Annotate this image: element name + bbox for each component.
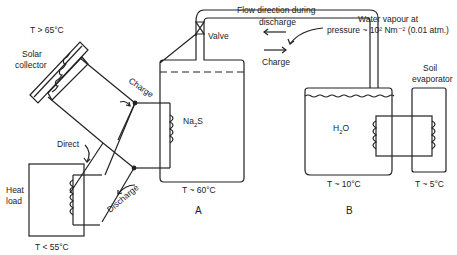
- soil-evaporator: [412, 88, 446, 172]
- flow-direction-title-2: discharge: [259, 17, 296, 27]
- vapour-label-1: Water vapour at: [358, 14, 419, 24]
- heat-load-label-2: load: [6, 196, 22, 206]
- solar-collector-label-2: collector: [15, 60, 47, 70]
- heat-load-label-1: Heat: [6, 185, 25, 195]
- solar-temperature-label: T > 65°C: [30, 25, 64, 35]
- valve: [196, 22, 204, 34]
- tank-a-temperature-label: T ~ 60°C: [182, 185, 216, 195]
- direct-flow-label: Direct: [57, 139, 80, 149]
- h2o-label: H2O: [333, 123, 349, 135]
- charge-junction: [133, 101, 137, 105]
- heat-load-temperature-label: T < 55°C: [35, 242, 69, 252]
- charge-flow-label: Charge: [127, 75, 156, 99]
- soil-evaporator-label-1: Soil: [423, 63, 437, 73]
- tank-b: [305, 88, 394, 175]
- tank-a-label: A: [195, 205, 202, 216]
- soil-evaporator-label-2: evaporator: [412, 74, 453, 84]
- heat-storage-diagram: T > 65°C Solar collector Heat load T < 5…: [0, 0, 457, 255]
- evaporator-coil-loop: [373, 116, 435, 156]
- discharge-junction: [132, 166, 136, 170]
- tank-a: [158, 34, 244, 182]
- na2s-label: Na2S: [183, 116, 203, 128]
- tank-b-label: B: [346, 205, 353, 216]
- valve-label: Valve: [208, 31, 229, 41]
- flow-direction-title-1: Flow direction during: [237, 5, 316, 15]
- vapour-label-2: pressure ~ 10² Nm⁻² (0.01 atm.): [327, 25, 449, 35]
- solar-collector-label-1: Solar: [22, 49, 42, 59]
- tank-b-temperature-label: T ~ 10°C: [327, 179, 361, 189]
- charge-pipe-label: Charge: [262, 57, 290, 67]
- soil-temperature-label: T ~ 5°C: [415, 179, 444, 189]
- flow-arrows: [264, 28, 323, 53]
